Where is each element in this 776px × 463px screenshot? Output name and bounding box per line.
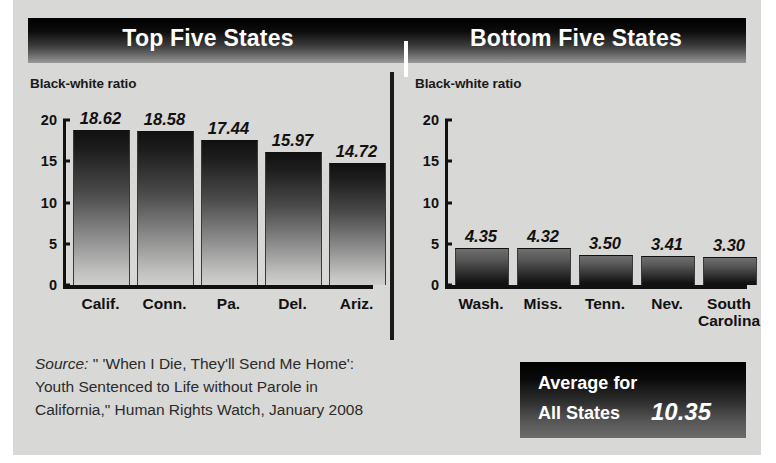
y-tick-label: 5: [31, 236, 57, 252]
y-tick-label: 10: [31, 195, 57, 211]
y-tick-label: 5: [413, 236, 439, 252]
plot-area-right: 051015204.35Wash.4.32Miss.3.50Tenn.3.41N…: [403, 100, 758, 330]
y-tick-label: 0: [413, 277, 439, 293]
bar: [641, 256, 695, 285]
header-band: Top Five States Bottom Five States: [28, 18, 746, 63]
average-value: 10.35: [651, 398, 711, 426]
bar: [329, 163, 386, 285]
x-axis-line: [445, 285, 747, 289]
header-title-bottom-five: Bottom Five States: [406, 25, 746, 52]
bar-value-label: 3.30: [693, 236, 761, 255]
bar: [517, 248, 571, 285]
y-tick-label: 15: [413, 153, 439, 169]
bar: [137, 131, 194, 285]
x-tick-label: SouthCarolina: [691, 295, 761, 329]
y-tick-mark: [445, 119, 452, 122]
y-tick-mark: [63, 242, 70, 245]
bar: [201, 140, 258, 285]
y-tick-mark: [63, 284, 70, 287]
y-tick-label: 20: [413, 112, 439, 128]
header-title-top-five: Top Five States: [28, 25, 388, 52]
source-line-1: " 'When I Die, They'll Send Me Home':: [88, 355, 354, 372]
y-tick-mark: [445, 160, 452, 163]
average-label-line1: Average for: [538, 373, 637, 394]
bar: [579, 255, 633, 285]
bar: [265, 152, 322, 285]
source-line-2: Youth Sentenced to Life without Parole i…: [35, 378, 318, 395]
infographic-panel: Top Five States Bottom Five States Black…: [13, 0, 761, 455]
y-tick-label: 0: [31, 277, 57, 293]
axis-caption-left: Black-white ratio: [30, 76, 136, 91]
y-tick-mark: [445, 284, 452, 287]
bar: [703, 257, 757, 285]
bar: [455, 248, 509, 285]
source-label: Source:: [35, 355, 88, 372]
x-tick-label: Ariz.: [317, 295, 396, 312]
bar-value-label: 14.72: [319, 142, 394, 161]
y-tick-mark: [445, 201, 452, 204]
y-tick-label: 20: [31, 112, 57, 128]
average-callout-box: Average for All States 10.35: [520, 362, 746, 438]
plot-area-left: 0510152018.62Calif.18.58Conn.17.44Pa.15.…: [18, 100, 386, 330]
source-note: Source: " 'When I Die, They'll Send Me H…: [35, 352, 465, 421]
axis-caption-right: Black-white ratio: [415, 76, 521, 91]
y-tick-mark: [63, 160, 70, 163]
chart-top-five-states: Black-white ratio 0510152018.62Calif.18.…: [18, 70, 386, 345]
source-line-3: California," Human Rights Watch, January…: [35, 401, 363, 418]
chart-bottom-five-states: Black-white ratio 051015204.35Wash.4.32M…: [403, 70, 758, 345]
y-tick-label: 10: [413, 195, 439, 211]
x-axis-line: [63, 285, 373, 289]
bar: [73, 130, 130, 285]
average-label-line2: All States: [538, 403, 620, 424]
y-tick-mark: [63, 201, 70, 204]
y-tick-label: 15: [31, 153, 57, 169]
